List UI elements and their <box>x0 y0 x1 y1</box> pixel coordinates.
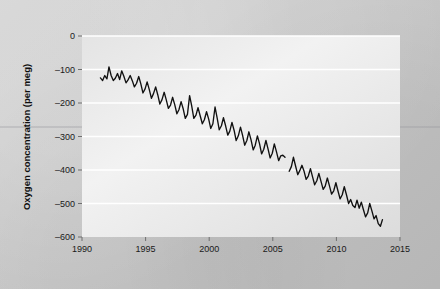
x-tick-label: 1990 <box>72 244 92 254</box>
x-tick-label: 2010 <box>326 244 346 254</box>
y-tick-label: –600 <box>55 232 75 242</box>
x-tick-label: 2005 <box>263 244 283 254</box>
y-tick-label: –200 <box>55 98 75 108</box>
y-axis-title: Oxygen concentration (per meg) <box>21 64 32 210</box>
y-tick-label: 0 <box>70 31 75 41</box>
x-tick-label: 2015 <box>390 244 410 254</box>
x-tick-label: 2000 <box>199 244 219 254</box>
y-tick-labels: 0–100–200–300–400–500–600 <box>55 31 75 242</box>
x-tick-label: 1995 <box>136 244 156 254</box>
y-tick-label: –100 <box>55 65 75 75</box>
x-tick-labels: 199019952000200520102015 <box>72 244 410 254</box>
y-tick-label: –400 <box>55 165 75 175</box>
oxygen-concentration-line-chart: 0–100–200–300–400–500–600 19901995200020… <box>0 0 440 289</box>
y-axis-ticks <box>78 36 82 237</box>
x-axis-ticks <box>82 237 400 241</box>
y-tick-label: –300 <box>55 132 75 142</box>
y-tick-label: –500 <box>55 199 75 209</box>
figure-canvas: 0–100–200–300–400–500–600 19901995200020… <box>0 0 440 289</box>
